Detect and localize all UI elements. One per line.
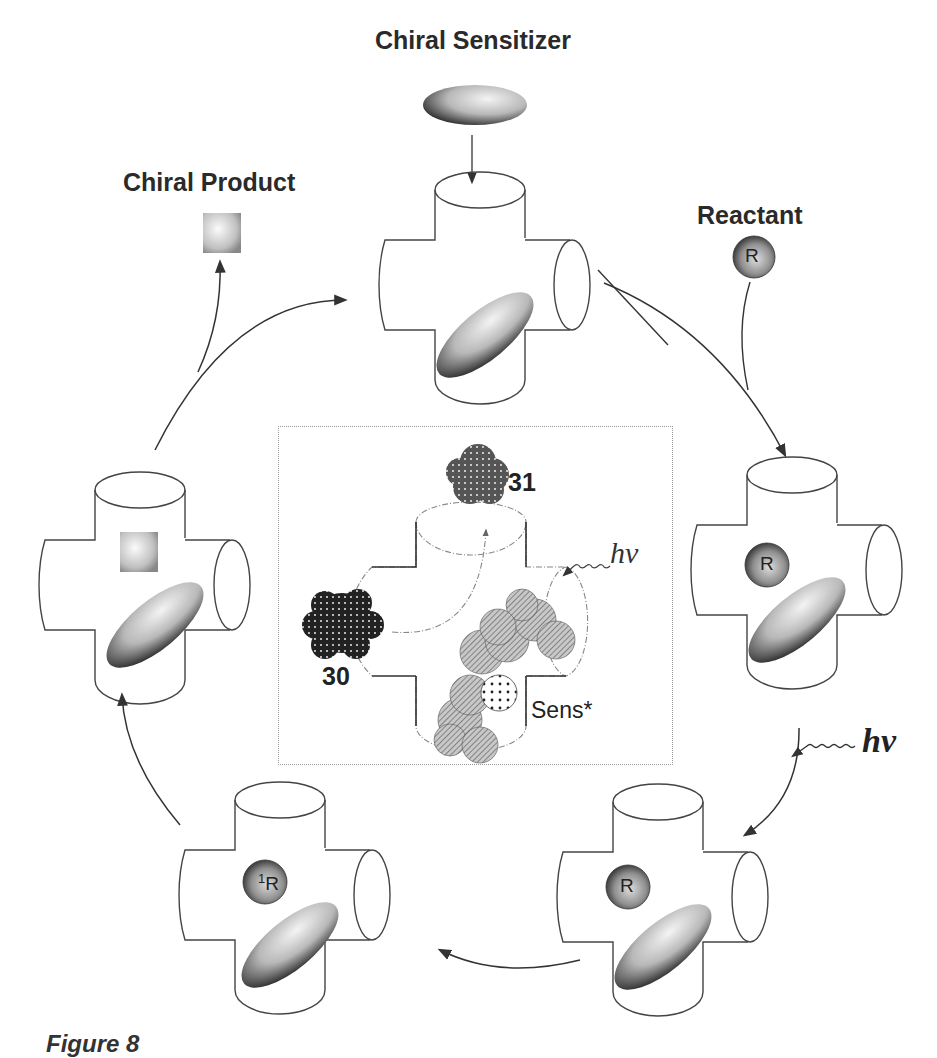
hv-outer-label: hν [862,722,896,760]
arrow-right-upper-to-right-lower [745,728,799,835]
arrow-reactant-entry [742,282,750,390]
chiral-sensitizer-icon [423,85,527,125]
arrow-blocked-cross [598,270,668,345]
singlet-r-letter: R [265,873,279,894]
host-stage-right-upper [691,457,902,689]
figure-caption: Figure 8 [46,1030,139,1058]
singlet-r-symbol: 1R [258,871,279,895]
inset-frame [278,426,673,765]
reactant-label: Reactant [697,201,803,230]
host-r-symbol-upper: R [760,553,774,575]
host-stage-top [379,172,590,404]
arrow-bottom-left-to-left [122,695,180,825]
host-stage-left [39,472,250,704]
host-stage-bottom-left [179,782,390,1014]
compound-30-label: 30 [322,662,350,691]
sens-star-label: Sens* [531,697,592,724]
hv-inset-label: hν [610,536,638,570]
host-stage-right-lower [557,784,768,1016]
host-r-symbol-lower: R [620,875,634,897]
arrow-right-lower-to-bottom-left [440,950,580,968]
hv-wavy-outer [793,745,855,757]
compound-31-label: 31 [508,468,536,497]
arrow-product-release [198,262,220,372]
chiral-product-icon [203,213,241,253]
reactant-symbol: R [745,245,759,267]
chiral-product-label: Chiral Product [123,168,295,197]
chiral-sensitizer-label: Chiral Sensitizer [375,26,571,55]
